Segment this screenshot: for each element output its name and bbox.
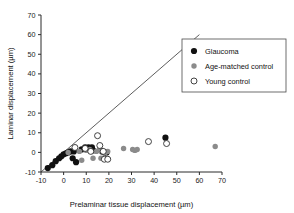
x-tick-label: 60: [195, 176, 203, 185]
data-point: [73, 159, 79, 165]
y-axis-title: Laminar displacement (µm): [6, 47, 15, 140]
data-point: [72, 144, 78, 150]
data-point: [82, 145, 88, 151]
y-tick-label: 20: [28, 109, 36, 118]
data-point: [145, 139, 151, 145]
legend-label: Age-matched control: [205, 62, 274, 71]
data-point: [164, 141, 170, 147]
legend-marker-filled-circle-gray: [191, 63, 196, 68]
data-point: [121, 146, 126, 151]
x-tick-label: 30: [128, 176, 136, 185]
y-tick-label: 10: [28, 128, 36, 137]
data-point: [90, 156, 95, 161]
y-tick-label: 30: [28, 89, 36, 98]
legend-label: Young control: [205, 77, 250, 86]
x-tick-label: 40: [150, 176, 158, 185]
legend-label: Glaucoma: [205, 47, 240, 56]
chart-canvas: -10010203040506070-10010203040506070 Pre…: [0, 0, 294, 213]
data-point: [162, 135, 168, 141]
y-tick-label: 70: [28, 11, 36, 20]
y-tick-label: -10: [25, 168, 35, 177]
y-tick-label: 40: [28, 69, 36, 78]
data-point: [100, 148, 106, 154]
legend-marker-open-circle: [191, 78, 197, 84]
data-point: [95, 133, 101, 139]
x-tick-label: 70: [218, 176, 226, 185]
y-tick-label: 0: [32, 148, 36, 157]
legend-marker-filled-circle: [191, 48, 197, 54]
x-tick-label: -10: [36, 176, 46, 185]
data-point: [213, 144, 218, 149]
x-tick-label: 0: [62, 176, 66, 185]
chart-legend: GlaucomaAge-matched controlYoung control: [182, 39, 286, 92]
y-tick-label: 50: [28, 50, 36, 59]
scatter-plot-figure: -10010203040506070-10010203040506070 Pre…: [0, 0, 294, 213]
data-point: [134, 147, 139, 152]
x-axis-title: Prelaminar tissue displacement (µm): [70, 200, 194, 209]
x-tick-label: 50: [173, 176, 181, 185]
data-point: [79, 158, 84, 163]
data-point: [88, 148, 94, 154]
data-point: [105, 156, 111, 162]
data-point: [97, 143, 103, 149]
x-tick-label: 10: [82, 176, 90, 185]
x-tick-label: 20: [105, 176, 113, 185]
data-point: [65, 150, 70, 155]
y-tick-label: 60: [28, 30, 36, 39]
